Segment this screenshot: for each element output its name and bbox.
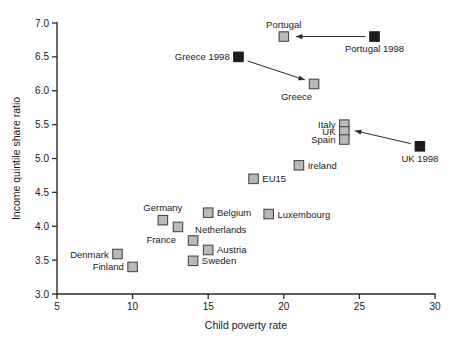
y-tick-label: 6.5 [35, 51, 49, 62]
portugal-arrow-head [296, 34, 303, 39]
x-tick-label: 5 [54, 301, 60, 312]
x-tick-label: 15 [203, 301, 215, 312]
y-tick-label: 5.5 [35, 119, 49, 130]
y-tick-label: 4.0 [35, 221, 49, 232]
y-tick-label: 6.0 [35, 85, 49, 96]
point-label-germany: Germany [143, 202, 182, 213]
data-point-belgium [203, 208, 213, 218]
y-tick-label: 3.5 [35, 255, 49, 266]
data-point-portugal-1998 [370, 32, 380, 42]
point-label-eu15: EU15 [262, 173, 286, 184]
point-label-spain: Spain [311, 134, 335, 145]
data-point-ireland [294, 161, 304, 171]
x-tick-label: 30 [429, 301, 441, 312]
x-tick-label: 10 [127, 301, 139, 312]
point-label-sweden: Sweden [202, 255, 236, 266]
data-point-eu15 [249, 174, 259, 184]
y-tick-label: 5.0 [35, 153, 49, 164]
point-label-austria: Austria [217, 244, 247, 255]
point-label-belgium: Belgium [217, 207, 251, 218]
greece-arrow-head [298, 75, 305, 80]
point-label-luxembourg: Luxembourg [277, 209, 330, 220]
y-tick-label: 7.0 [35, 18, 49, 29]
point-label-france: France [146, 234, 176, 245]
data-point-greece [309, 79, 319, 89]
uk-arrow [355, 131, 411, 144]
data-point-sweden [188, 256, 198, 266]
data-point-netherlands [188, 236, 198, 246]
point-label-ireland: Ireland [308, 160, 337, 171]
point-label-uk-1998: UK 1998 [401, 153, 438, 164]
point-label-denmark: Denmark [70, 249, 109, 260]
data-point-finland [128, 262, 138, 272]
data-point-portugal [279, 32, 289, 42]
x-tick-label: 20 [278, 301, 290, 312]
x-tick-label: 25 [354, 301, 366, 312]
plot-area: 3.03.54.04.55.05.56.06.57.051015202530Ch… [0, 0, 453, 344]
data-point-denmark [113, 249, 123, 259]
point-label-portugal: Portugal [266, 19, 301, 30]
data-point-greece-1998 [234, 52, 244, 62]
data-point-austria [203, 245, 213, 255]
y-axis-title: Income quintile share ratio [10, 97, 22, 220]
data-point-spain [340, 135, 350, 145]
point-label-netherlands: Netherlands [195, 224, 246, 235]
data-point-uk-1998 [415, 142, 425, 152]
point-label-greece-1998: Greece 1998 [175, 51, 230, 62]
y-tick-label: 4.5 [35, 187, 49, 198]
y-tick-label: 3.0 [35, 289, 49, 300]
uk-arrow-head [355, 130, 362, 135]
data-point-france [173, 222, 183, 232]
greece-arrow [248, 61, 305, 80]
scatter-chart: 3.03.54.04.55.05.56.06.57.051015202530Ch… [0, 0, 453, 344]
data-point-luxembourg [264, 209, 274, 219]
point-label-portugal-1998: Portugal 1998 [345, 43, 404, 54]
x-axis-title: Child poverty rate [205, 319, 287, 331]
point-label-greece: Greece [281, 91, 312, 102]
data-point-germany [158, 215, 168, 225]
point-label-finland: Finland [93, 261, 124, 272]
